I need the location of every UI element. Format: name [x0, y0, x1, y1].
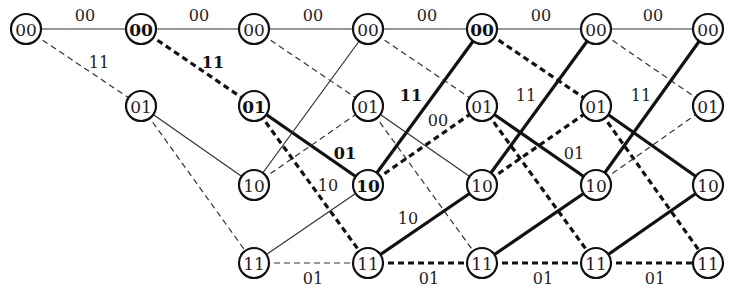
- node-label: 01: [585, 97, 607, 117]
- state-node-10-col-4: 10: [467, 170, 497, 200]
- state-node-10-col-5: 10: [581, 170, 611, 200]
- edge-label: 00: [428, 111, 448, 130]
- node-label: 01: [471, 97, 493, 117]
- edge-label: 10: [398, 209, 418, 228]
- edge-label: 11: [400, 86, 422, 105]
- state-node-10-col-3: 10: [353, 170, 383, 200]
- node-label: 01: [130, 97, 152, 117]
- edge-01-to-10-c1: [141, 106, 254, 185]
- node-label: 00: [470, 20, 494, 40]
- edge-10-to-00-c5: [596, 29, 708, 185]
- node-label: 01: [697, 97, 719, 117]
- state-node-01-col-5: 01: [581, 91, 611, 121]
- node-label: 11: [471, 254, 493, 274]
- node-label: 11: [243, 254, 265, 274]
- node-label: 00: [129, 20, 153, 40]
- edge-label: 11: [89, 53, 109, 72]
- state-node-00-col-6: 00: [693, 14, 723, 44]
- edge-label-layer: 0000000000001111111111000101101001010101: [75, 6, 665, 288]
- edge-label: 10: [318, 176, 338, 195]
- edge-00-to-01-c4: [482, 29, 596, 106]
- edge-label: 11: [631, 86, 651, 105]
- edge-00-to-01-c5: [596, 29, 708, 106]
- state-node-11-col-4: 11: [467, 248, 497, 278]
- node-label: 10: [585, 176, 607, 196]
- node-label: 11: [585, 254, 607, 274]
- state-node-11-col-6: 11: [693, 248, 723, 278]
- state-node-11-col-5: 11: [581, 248, 611, 278]
- state-node-01-col-1: 01: [126, 91, 156, 121]
- edge-label: 00: [75, 6, 95, 25]
- edge-11-to-10-c5: [596, 185, 708, 263]
- node-label: 00: [585, 20, 607, 40]
- edge-01-to-11-c2: [254, 106, 368, 263]
- edge-00-to-01-c1: [141, 29, 254, 106]
- edge-00-to-01-c0: [26, 29, 141, 106]
- edge-label: 00: [189, 6, 209, 25]
- edge-label: 01: [533, 269, 553, 288]
- node-label: 00: [15, 20, 37, 40]
- node-label: 01: [242, 97, 266, 117]
- node-label: 00: [243, 20, 265, 40]
- state-node-10-col-2: 10: [239, 170, 269, 200]
- edge-label: 01: [564, 144, 584, 163]
- edge-label: 11: [202, 53, 224, 72]
- edge-01-to-11-c1: [141, 106, 254, 263]
- state-node-11-col-2: 11: [239, 248, 269, 278]
- state-node-01-col-6: 01: [693, 91, 723, 121]
- edge-10-to-00-c3: [368, 29, 482, 185]
- state-node-00-col-0: 00: [11, 14, 41, 44]
- trellis-diagram: 0000000000001111111111000101101001010101…: [0, 0, 729, 300]
- node-label: 00: [697, 20, 719, 40]
- edge-layer: [26, 29, 708, 263]
- node-label: 10: [356, 176, 380, 196]
- state-node-00-col-3: 00: [353, 14, 383, 44]
- edge-01-to-11-c4: [482, 106, 596, 263]
- edge-00-to-01-c2: [254, 29, 368, 106]
- edge-label: 00: [303, 6, 323, 25]
- edge-label: 00: [531, 6, 551, 25]
- state-node-01-col-2: 01: [239, 91, 269, 121]
- state-node-10-col-6: 10: [693, 170, 723, 200]
- node-label: 10: [243, 176, 265, 196]
- edge-label: 11: [516, 86, 536, 105]
- node-label: 11: [697, 254, 719, 274]
- state-node-00-col-4: 00: [467, 14, 497, 44]
- node-label: 11: [357, 254, 379, 274]
- edge-label: 01: [645, 269, 665, 288]
- trellis-svg: 0000000000001111111111000101101001010101…: [0, 0, 729, 300]
- node-layer: 0000010001101100011011000110110001101100…: [11, 14, 723, 278]
- state-node-00-col-5: 00: [581, 14, 611, 44]
- edge-11-to-10-c3: [368, 185, 482, 263]
- node-label: 10: [471, 176, 493, 196]
- state-node-11-col-3: 11: [353, 248, 383, 278]
- state-node-01-col-4: 01: [467, 91, 497, 121]
- node-label: 01: [357, 97, 379, 117]
- edge-01-to-11-c3: [368, 106, 482, 263]
- state-node-00-col-1: 00: [126, 14, 156, 44]
- node-label: 00: [357, 20, 379, 40]
- edge-label: 01: [334, 144, 356, 163]
- edge-label: 00: [643, 6, 663, 25]
- node-label: 10: [697, 176, 719, 196]
- edge-11-to-10-c4: [482, 185, 596, 263]
- edge-11-to-10-c2: [254, 185, 368, 263]
- edge-label: 01: [419, 269, 439, 288]
- edge-label: 01: [303, 269, 323, 288]
- edge-00-to-01-c3: [368, 29, 482, 106]
- state-node-01-col-3: 01: [353, 91, 383, 121]
- edge-label: 00: [417, 6, 437, 25]
- state-node-00-col-2: 00: [239, 14, 269, 44]
- edge-01-to-11-c5: [596, 106, 708, 263]
